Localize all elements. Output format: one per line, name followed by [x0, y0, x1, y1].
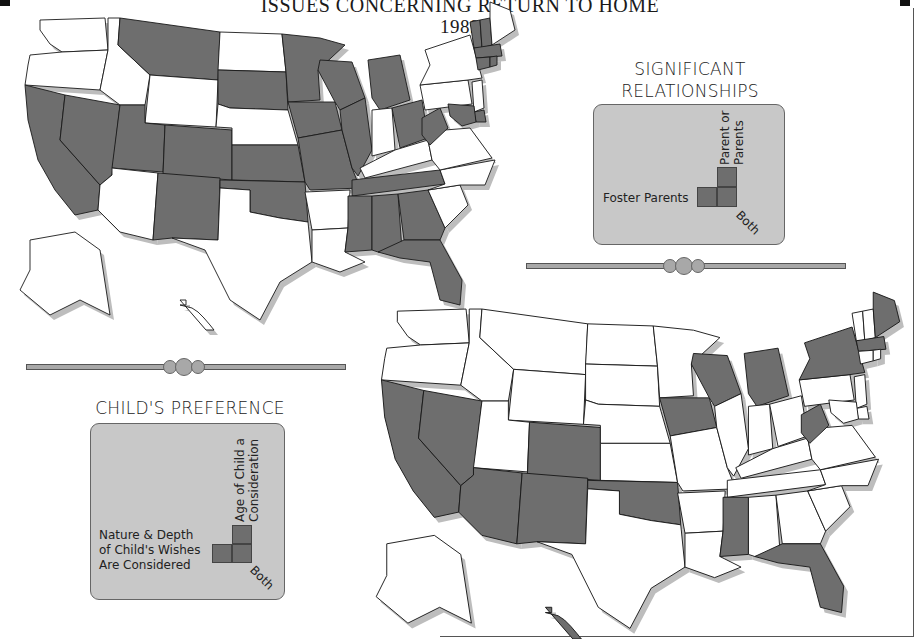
state-hi [180, 300, 214, 330]
legend-swatch-both [232, 544, 252, 563]
divider-bead [191, 360, 205, 374]
state-ms [720, 497, 749, 556]
state-or [25, 50, 108, 90]
state-ri [873, 349, 880, 361]
legend-heading-line1: SIGNIFICANT [570, 58, 810, 80]
legend-heading-significant-relationships: SIGNIFICANT RELATIONSHIPS [570, 58, 810, 102]
legend-heading-line2: RELATIONSHIPS [570, 80, 810, 102]
legend-label-age-of-child: Age of Child a Consideration [233, 438, 261, 522]
state-md [829, 400, 859, 423]
state-ar [305, 190, 350, 230]
state-ar [678, 491, 726, 533]
divider-bead [691, 259, 705, 273]
state-nm [517, 473, 588, 544]
legend-swatch-age [232, 525, 252, 544]
state-wa [40, 18, 108, 52]
legend-label-nature-depth: Nature & Depth of Child's Wishes Are Con… [99, 528, 200, 573]
legend-swatch-nature [212, 544, 232, 563]
legend-label-both: Both [733, 208, 763, 238]
state-sd [218, 70, 288, 110]
state-ks [232, 145, 305, 182]
state-ri [490, 56, 497, 67]
map2-states [376, 292, 904, 639]
state-or [381, 343, 469, 385]
state-ms [345, 196, 372, 252]
state-wy [145, 75, 218, 127]
legend-label-parent-or-parents: Parent or Parents [718, 110, 746, 165]
state-az [98, 168, 158, 240]
state-fl [755, 544, 844, 613]
legend-swatch-foster [697, 187, 717, 207]
state-nd [218, 32, 286, 72]
us-map-childs-preference [340, 290, 920, 639]
state-sd [586, 364, 660, 406]
state-az [459, 468, 522, 544]
state-nd [586, 324, 658, 366]
state-in [372, 108, 395, 156]
state-nm [153, 173, 220, 240]
legend-label-both: Both [247, 563, 277, 593]
state-hi [545, 607, 581, 639]
legend-panel-significant-relationships: Foster Parents Parent or Parents Both [593, 104, 785, 245]
us-map-significant-relationships [0, 0, 520, 330]
state-co [163, 125, 232, 180]
state-wa [397, 309, 469, 345]
legend-swatch-both [717, 187, 737, 207]
state-co [527, 422, 600, 480]
state-wy [508, 369, 585, 424]
state-md [448, 104, 476, 126]
legend-heading-childs-preference: CHILD'S PREFERENCE [70, 398, 310, 418]
state-in [748, 404, 772, 455]
legend-swatch-parent [717, 167, 737, 187]
legend-panel-childs-preference: Nature & Depth of Child's Wishes Are Con… [90, 423, 285, 600]
state-ks [600, 443, 677, 482]
map1-states [20, 2, 519, 335]
legend-label-foster-parents: Foster Parents [603, 191, 689, 206]
